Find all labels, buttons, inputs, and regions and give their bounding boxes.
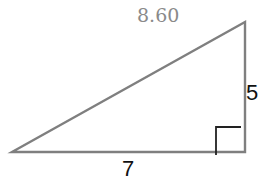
hypotenuse-label: 8.60 xyxy=(137,6,179,25)
vertical-leg-label: 5 xyxy=(246,82,258,104)
horizontal-leg-label: 7 xyxy=(122,158,134,179)
right-triangle xyxy=(12,22,245,152)
triangle-diagram xyxy=(0,0,265,179)
